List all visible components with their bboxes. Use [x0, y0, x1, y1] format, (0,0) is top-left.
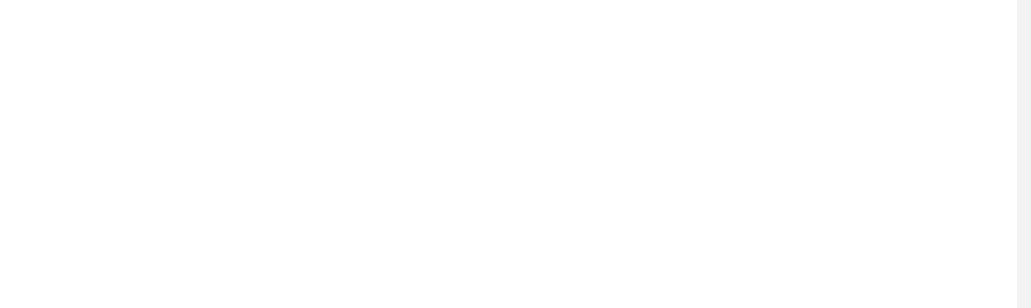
music-staff-score [0, 0, 1031, 308]
page-edge [1017, 0, 1031, 308]
